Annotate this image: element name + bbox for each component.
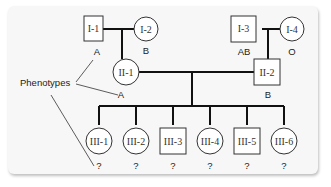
svg-text:III-6: III-6	[275, 136, 293, 147]
individual-III-2: III-2	[123, 128, 149, 154]
individual-I-2: I-2	[134, 17, 158, 41]
svg-text:III-1: III-1	[90, 136, 108, 147]
svg-text:II-2: II-2	[260, 67, 275, 78]
phenotype-III-1: ?	[96, 160, 101, 171]
individual-III-1: III-1	[86, 128, 112, 154]
phenotypes-label: Phenotypes	[20, 77, 70, 88]
svg-text:III-2: III-2	[127, 136, 145, 147]
individual-III-4: III-4	[197, 128, 223, 154]
individual-III-3: III-3	[160, 128, 186, 154]
phenotype-II-2: B	[265, 89, 271, 100]
phenotype-I-2: B	[143, 45, 149, 56]
individual-I-4: I-4	[280, 17, 304, 41]
individual-III-5: III-5	[234, 128, 260, 154]
phenotype-I-4: O	[288, 46, 295, 57]
svg-text:III-5: III-5	[238, 136, 256, 147]
phenotype-III-3: ?	[170, 160, 175, 171]
svg-text:I-1: I-1	[88, 23, 100, 34]
phenotype-I-3: AB	[238, 46, 251, 57]
svg-text:I-2: I-2	[140, 24, 152, 35]
svg-text:I-3: I-3	[238, 23, 250, 34]
phenotype-II-1: A	[118, 89, 125, 100]
individual-II-1: II-1	[113, 59, 139, 85]
svg-text:III-4: III-4	[201, 136, 219, 147]
individual-I-1: I-1	[84, 16, 103, 41]
individual-I-3: I-3	[231, 16, 256, 42]
phenotype-I-1: A	[94, 46, 101, 57]
individual-II-2: II-2	[254, 59, 280, 85]
svg-text:III-3: III-3	[164, 136, 182, 147]
phenotype-III-6: ?	[281, 160, 286, 171]
phenotype-III-2: ?	[133, 160, 138, 171]
phenotype-III-4: ?	[207, 160, 212, 171]
svg-text:I-4: I-4	[286, 24, 298, 35]
svg-text:II-1: II-1	[119, 67, 134, 78]
pedigree-diagram: I-1 A I-2 B I-3 AB I-4 O II-1 A II-2 B P…	[0, 0, 331, 187]
individual-III-6: III-6	[271, 128, 297, 154]
phenotype-III-5: ?	[244, 160, 249, 171]
